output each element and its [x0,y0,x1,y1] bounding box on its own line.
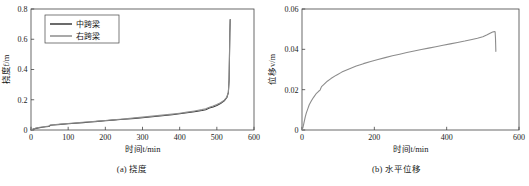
figure-container: 010020030040050060000.20.40.60.8时间t/min挠… [0,0,529,186]
x-tick-label: 600 [513,133,525,142]
y-axis-label: 挠度f/m [1,54,11,84]
legend-label: 中跨梁 [76,19,100,29]
x-tick-label: 0 [300,133,304,142]
x-axis-label: 时间t/min [392,144,429,154]
y-tick-label: 0.02 [284,86,298,95]
plot-frame [302,9,519,130]
panel-b-horizontal-displacement: 020040060000.020.040.06时间t/min位移v/m (b) … [265,0,529,186]
legend-label: 右跨梁 [76,31,100,41]
deflection-chart: 010020030040050060000.20.40.60.8时间t/min挠… [0,0,264,162]
x-tick-label: 500 [211,133,223,142]
x-tick-label: 400 [174,133,186,142]
caption-panel-a: (a) 挠度 [0,162,265,174]
x-tick-label: 200 [99,133,111,142]
x-tick-label: 0 [29,133,33,142]
x-tick-label: 100 [62,133,74,142]
x-tick-label: 400 [440,133,452,142]
y-tick-label: 0.2 [18,96,28,105]
y-tick-label: 0 [24,126,28,135]
series-line [302,32,496,130]
displacement-chart: 020040060000.020.040.06时间t/min位移v/m [265,0,529,162]
x-axis-label: 时间t/min [125,144,162,154]
caption-panel-b: (b) 水平位移 [265,162,529,174]
y-tick-label: 0.8 [18,5,28,14]
x-tick-label: 600 [248,133,260,142]
y-tick-label: 0.6 [18,35,28,44]
panel-a-deflection: 010020030040050060000.20.40.60.8时间t/min挠… [0,0,265,186]
x-tick-label: 200 [368,133,380,142]
y-axis-label: 位移v/m [267,54,277,86]
y-tick-label: 0.04 [284,45,298,54]
y-tick-label: 0 [294,126,298,135]
y-tick-label: 0.4 [18,65,28,74]
x-tick-label: 300 [137,133,149,142]
y-tick-label: 0.06 [284,5,298,14]
